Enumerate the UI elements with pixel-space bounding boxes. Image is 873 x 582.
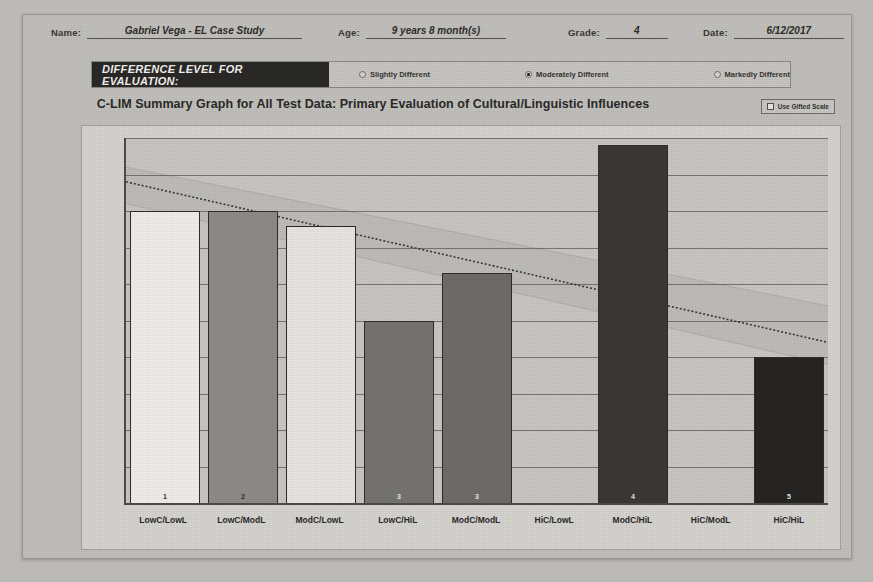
bar-value-label: 3	[475, 493, 479, 500]
x-axis-tick-label: HiC/LowL	[515, 509, 593, 535]
age-field[interactable]: Age: 9 years 8 month(s)	[338, 25, 506, 39]
use-gifted-scale-label: Use Gifted Scale	[778, 103, 829, 110]
x-axis-tick-label: ModC/LowL	[280, 509, 358, 535]
chart-container: 50556065707580859095100123345 LowC/LowLL…	[81, 125, 841, 550]
radio-moderately-different[interactable]: Moderately Different	[525, 70, 609, 79]
chart-bar[interactable]: 2	[208, 211, 279, 503]
page-title: C-LIM Summary Graph for All Test Data: P…	[23, 97, 723, 111]
chart-bar[interactable]: 3	[364, 321, 435, 504]
name-label: Name:	[51, 27, 81, 39]
difference-level-label: DIFFERENCE LEVEL FOR EVALUATION:	[92, 62, 329, 87]
name-field[interactable]: Name: Gabriel Vega - EL Case Study	[51, 25, 302, 39]
x-axis-tick-label: ModC/ModL	[437, 509, 515, 535]
grade-label: Grade:	[568, 27, 600, 39]
grade-field[interactable]: Grade: 4	[568, 25, 668, 39]
chart-bar[interactable]: 3	[442, 273, 513, 503]
checkbox-icon[interactable]	[767, 103, 774, 110]
bar-value-label: 5	[787, 493, 791, 500]
radio-markedly-different[interactable]: Markedly Different	[714, 70, 790, 79]
date-label: Date:	[703, 27, 728, 39]
radio-dot-icon	[359, 71, 366, 78]
bar-value-label: 2	[241, 493, 245, 500]
grade-value[interactable]: 4	[606, 25, 668, 39]
radio-slightly-different[interactable]: Slightly Different	[359, 70, 430, 79]
x-axis-tick-label: LowC/LowL	[124, 509, 202, 535]
bar-value-label: 3	[397, 493, 401, 500]
date-value[interactable]: 6/12/2017	[734, 25, 844, 39]
name-value[interactable]: Gabriel Vega - EL Case Study	[87, 25, 302, 39]
chart-bar[interactable]: 1	[130, 211, 201, 503]
use-gifted-scale-checkbox[interactable]: Use Gifted Scale	[761, 99, 835, 114]
x-axis-tick-label: LowC/HiL	[359, 509, 437, 535]
chart-bar[interactable]	[286, 226, 357, 503]
age-label: Age:	[338, 27, 360, 39]
difference-level-options: Slightly Different Moderately Different …	[329, 62, 790, 87]
chart-bar[interactable]: 5	[754, 357, 825, 503]
chart-bar[interactable]: 4	[598, 145, 669, 503]
radio-label: Moderately Different	[536, 70, 609, 79]
x-axis-tick-label: ModC/HiL	[593, 509, 671, 535]
x-axis-tick-label: HiC/ModL	[672, 509, 750, 535]
radio-dot-icon	[525, 71, 532, 78]
difference-level-bar: DIFFERENCE LEVEL FOR EVALUATION: Slightl…	[91, 61, 791, 88]
radio-label: Markedly Different	[725, 70, 790, 79]
chart-title-row: C-LIM Summary Graph for All Test Data: P…	[23, 97, 853, 119]
age-value[interactable]: 9 years 8 month(s)	[366, 25, 506, 39]
report-sheet: Name: Gabriel Vega - EL Case Study Age: …	[22, 14, 852, 559]
gridline	[126, 503, 828, 504]
radio-dot-icon	[714, 71, 721, 78]
radio-label: Slightly Different	[370, 70, 430, 79]
bar-value-label: 1	[163, 493, 167, 500]
plot-area: 50556065707580859095100123345	[124, 138, 828, 505]
scanned-page: Name: Gabriel Vega - EL Case Study Age: …	[0, 0, 873, 582]
x-axis-labels: LowC/LowLLowC/ModLModC/LowLLowC/HiLModC/…	[124, 509, 828, 535]
x-axis-tick-label: LowC/ModL	[202, 509, 280, 535]
header-fields: Name: Gabriel Vega - EL Case Study Age: …	[23, 25, 853, 51]
bar-value-label: 4	[631, 493, 635, 500]
x-axis-tick-label: HiC/HiL	[750, 509, 828, 535]
date-field[interactable]: Date: 6/12/2017	[703, 25, 844, 39]
